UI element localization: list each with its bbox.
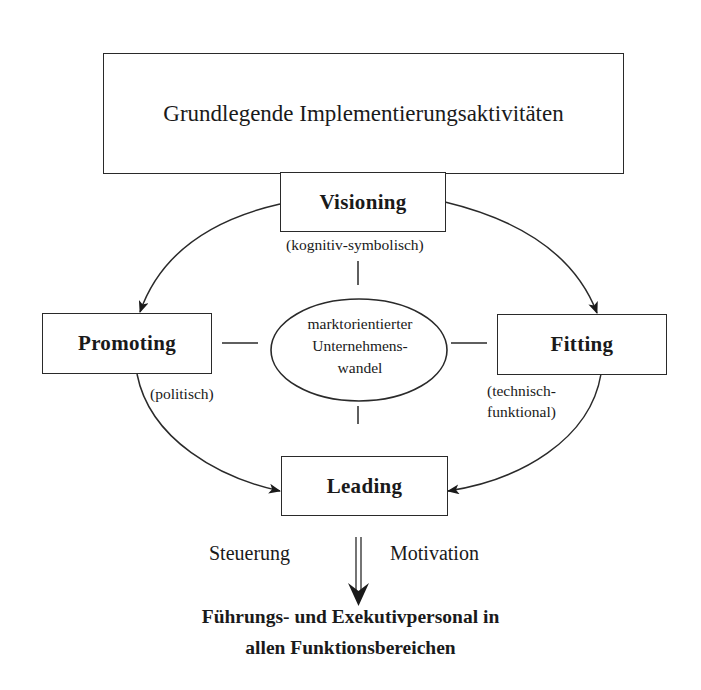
leading-box: Leading [281,456,448,516]
center-line3: wandel [272,357,448,379]
fitting-note-line2: funktional) [487,402,556,421]
target-line2: allen Funktionsbereichen [0,632,701,663]
title-box: Grundlegende Implementierungsaktivitäten [103,53,624,174]
visioning-box: Visioning [280,172,446,232]
promoting-note: (politisch) [150,384,214,403]
fitting-box: Fitting [497,314,667,375]
promoting-label: Promoting [78,331,176,356]
leading-label: Leading [327,474,403,499]
fitting-note-line1: (technisch- [487,381,556,400]
arrow-visioning-to-promoting [140,204,280,312]
center-concept: marktorientierter Unternehmens- wandel [272,313,448,379]
arrow-visioning-to-fitting [445,202,597,313]
title-text: Grundlegende Implementierungsaktivitäten [163,101,563,127]
visioning-note: (kognitiv-symbolisch) [286,235,424,254]
fitting-label: Fitting [551,332,614,357]
center-line1: marktorientierter [272,313,448,335]
center-line2: Unternehmens- [272,335,448,357]
target-line1: Führungs- und Exekutivpersonal in [0,601,701,632]
visioning-label: Visioning [319,190,406,215]
flow-label-motivation: Motivation [390,542,479,565]
flow-label-steuerung: Steuerung [209,542,290,565]
promoting-box: Promoting [42,313,212,374]
